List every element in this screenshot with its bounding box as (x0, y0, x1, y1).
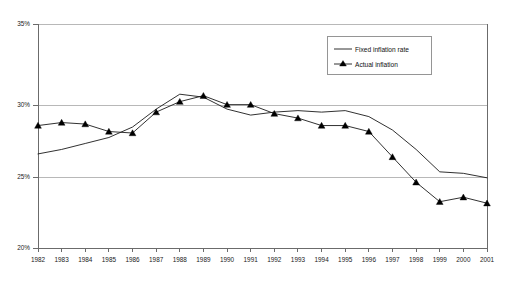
x-tick-label-1988: 1988 (173, 256, 188, 263)
x-tick-label-1997: 1997 (385, 256, 400, 263)
x-tick-label-1989: 1989 (196, 256, 211, 263)
x-tick-label-1993: 1993 (291, 256, 306, 263)
y-tick-label-35: 35% (17, 20, 30, 27)
legend-box (327, 36, 431, 74)
x-tick-label-1987: 1987 (149, 256, 164, 263)
x-tick-label-1995: 1995 (338, 256, 353, 263)
x-tick-label-1992: 1992 (267, 256, 282, 263)
x-tick-label-2001: 2001 (480, 256, 495, 263)
legend-label-actual-inflation: Actual inflation (355, 61, 398, 68)
x-tick-label-1984: 1984 (78, 256, 93, 263)
x-tick-label-1985: 1985 (102, 256, 117, 263)
x-tick-label-1991: 1991 (244, 256, 259, 263)
chart-container: 35% 30% 25% 20% 198219831984198519861987… (0, 0, 508, 281)
y-tick-label-20: 20% (17, 244, 30, 251)
x-tick-label-1986: 1986 (125, 256, 140, 263)
x-tick-label-1996: 1996 (362, 256, 377, 263)
legend-label-fixed-inflation-rate: Fixed inflation rate (355, 46, 409, 53)
chart-background (0, 0, 508, 281)
y-tick-label-30: 30% (17, 101, 30, 108)
x-tick-label-1994: 1994 (314, 256, 329, 263)
x-tick-label-1982: 1982 (31, 256, 46, 263)
x-tick-label-1998: 1998 (409, 256, 424, 263)
y-tick-label-25: 25% (17, 173, 30, 180)
x-tick-label-1999: 1999 (433, 256, 448, 263)
line-chart: 35% 30% 25% 20% 198219831984198519861987… (0, 0, 508, 281)
x-tick-label-1983: 1983 (55, 256, 70, 263)
legend: Fixed inflation rate Actual inflation (327, 36, 431, 74)
x-tick-label-2000: 2000 (456, 256, 471, 263)
x-tick-label-1990: 1990 (220, 256, 235, 263)
